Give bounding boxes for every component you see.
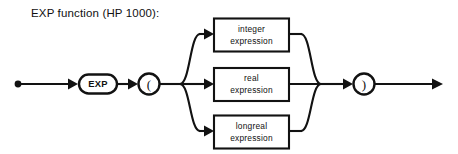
integer-expression-line1: integer [238, 24, 265, 34]
start-dot-marker [15, 81, 22, 88]
arrow-into-exp-icon [68, 79, 78, 90]
exp-keyword-label: EXP [88, 78, 108, 89]
syntax-diagram-figure: EXP function (HP 1000): EXP ( integer [0, 0, 458, 154]
railroad-diagram-canvas: EXP ( integer expression real expression… [0, 0, 458, 154]
rail-fork-up-to-integer [180, 34, 200, 84]
arrow-into-real-box-icon [204, 79, 214, 90]
open-paren-label: ( [147, 77, 151, 92]
rail-merge-longreal [301, 84, 321, 131]
close-paren-label: ) [362, 77, 366, 92]
real-expression-line2: expression [230, 85, 273, 95]
integer-expression-line2: expression [230, 36, 273, 46]
longreal-expression-line1: longreal [236, 121, 267, 131]
real-expression-line1: real [244, 73, 259, 83]
arrow-into-longreal-box-icon [204, 126, 214, 137]
arrow-into-open-paren-icon [128, 79, 138, 90]
arrow-terminal-icon [432, 79, 443, 90]
longreal-expression-line2: expression [230, 133, 273, 143]
rail-fork-down-to-longreal [180, 84, 200, 131]
arrow-into-close-paren-icon [343, 79, 353, 90]
rail-merge-integer [301, 34, 321, 84]
arrow-into-integer-box-icon [204, 29, 214, 40]
